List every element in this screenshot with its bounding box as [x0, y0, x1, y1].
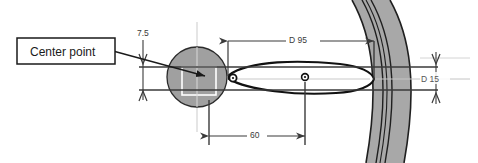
technical-drawing-canvas: 7.5 D 95 D 15 60 [0, 0, 478, 163]
center-point-circle [167, 47, 227, 107]
dim-7-5-label: 7.5 [137, 28, 149, 38]
lens-center-marker [302, 74, 309, 81]
dim-d-15-label: D 15 [421, 74, 439, 84]
lens-left-tip-marker [229, 74, 236, 81]
callout-label: Center point [30, 45, 96, 59]
dim-d-15: D 15 [420, 52, 450, 104]
dim-d-95-label: D 95 [289, 35, 307, 45]
dim-60-label: 60 [250, 130, 260, 140]
drawing-svg: 7.5 D 95 D 15 60 [0, 0, 478, 163]
